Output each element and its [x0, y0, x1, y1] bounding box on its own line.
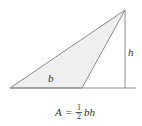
formula-equals: = [66, 106, 72, 118]
formula-fraction: 1 2 [76, 104, 82, 121]
formula-area-symbol: A [55, 106, 62, 118]
fraction-denominator: 2 [77, 113, 81, 121]
base-label: b [48, 72, 54, 84]
area-formula: A = 1 2 bh [55, 101, 95, 123]
shaded-triangle [10, 10, 125, 88]
height-label: h [128, 46, 134, 58]
formula-variables: bh [84, 106, 95, 118]
